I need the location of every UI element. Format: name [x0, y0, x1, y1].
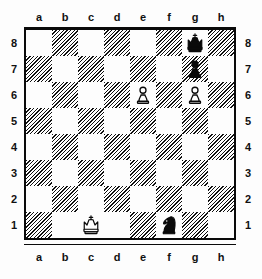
square-b8[interactable]	[52, 30, 78, 56]
square-h5[interactable]	[208, 108, 234, 134]
file-label-b: b	[52, 248, 78, 266]
file-label-b: b	[52, 8, 78, 26]
square-f2[interactable]	[156, 186, 182, 212]
square-f7[interactable]	[156, 56, 182, 82]
rank-label-1: 1	[239, 212, 257, 238]
rank-labels-left: 87654321	[5, 30, 23, 238]
square-g7[interactable]	[182, 56, 208, 82]
square-e2[interactable]	[130, 186, 156, 212]
square-b2[interactable]	[52, 186, 78, 212]
square-a3[interactable]	[26, 160, 52, 186]
square-d8[interactable]	[104, 30, 130, 56]
square-b4[interactable]	[52, 134, 78, 160]
square-d5[interactable]	[104, 108, 130, 134]
board-bottom-rule	[24, 244, 236, 245]
square-a8[interactable]	[26, 30, 52, 56]
file-label-g: g	[182, 248, 208, 266]
square-a7[interactable]	[26, 56, 52, 82]
file-label-g: g	[182, 8, 208, 26]
square-c4[interactable]	[78, 134, 104, 160]
file-label-f: f	[156, 248, 182, 266]
rank-labels-right: 87654321	[239, 30, 257, 238]
rank-label-1: 1	[5, 212, 23, 238]
rank-label-4: 4	[239, 134, 257, 160]
file-label-a: a	[26, 248, 52, 266]
square-c7[interactable]	[78, 56, 104, 82]
square-b7[interactable]	[52, 56, 78, 82]
square-d7[interactable]	[104, 56, 130, 82]
square-a4[interactable]	[26, 134, 52, 160]
file-label-e: e	[130, 8, 156, 26]
file-label-h: h	[208, 248, 234, 266]
square-b1[interactable]	[52, 212, 78, 238]
rank-label-7: 7	[239, 56, 257, 82]
square-e7[interactable]	[130, 56, 156, 82]
square-c5[interactable]	[78, 108, 104, 134]
chess-diagram: abcdefgh 87654321 87654321 abcdefgh	[0, 0, 262, 279]
square-d3[interactable]	[104, 160, 130, 186]
square-h8[interactable]	[208, 30, 234, 56]
square-f3[interactable]	[156, 160, 182, 186]
square-f8[interactable]	[156, 30, 182, 56]
square-d4[interactable]	[104, 134, 130, 160]
rank-label-3: 3	[5, 160, 23, 186]
square-e8[interactable]	[130, 30, 156, 56]
square-b3[interactable]	[52, 160, 78, 186]
square-d6[interactable]	[104, 82, 130, 108]
rank-label-5: 5	[5, 108, 23, 134]
square-e1[interactable]	[130, 212, 156, 238]
file-label-d: d	[104, 248, 130, 266]
rank-label-3: 3	[239, 160, 257, 186]
square-h2[interactable]	[208, 186, 234, 212]
square-g3[interactable]	[182, 160, 208, 186]
square-f4[interactable]	[156, 134, 182, 160]
square-h1[interactable]	[208, 212, 234, 238]
rank-label-4: 4	[5, 134, 23, 160]
square-a2[interactable]	[26, 186, 52, 212]
white-pawn-icon[interactable]	[130, 82, 156, 108]
square-b5[interactable]	[52, 108, 78, 134]
black-pawn-icon[interactable]	[182, 56, 208, 82]
square-d1[interactable]	[104, 212, 130, 238]
square-c3[interactable]	[78, 160, 104, 186]
square-g2[interactable]	[182, 186, 208, 212]
rank-label-2: 2	[239, 186, 257, 212]
square-a5[interactable]	[26, 108, 52, 134]
square-a6[interactable]	[26, 82, 52, 108]
square-e5[interactable]	[130, 108, 156, 134]
square-h4[interactable]	[208, 134, 234, 160]
square-b6[interactable]	[52, 82, 78, 108]
chessboard[interactable]	[24, 28, 236, 240]
square-a1[interactable]	[26, 212, 52, 238]
file-labels-top: abcdefgh	[26, 8, 234, 26]
file-label-c: c	[78, 8, 104, 26]
square-f5[interactable]	[156, 108, 182, 134]
square-e4[interactable]	[130, 134, 156, 160]
square-e3[interactable]	[130, 160, 156, 186]
white-pawn-icon[interactable]	[182, 82, 208, 108]
square-d2[interactable]	[104, 186, 130, 212]
square-g6[interactable]	[182, 82, 208, 108]
white-king-icon[interactable]	[78, 212, 104, 238]
square-e6[interactable]	[130, 82, 156, 108]
square-h3[interactable]	[208, 160, 234, 186]
square-h6[interactable]	[208, 82, 234, 108]
file-label-h: h	[208, 8, 234, 26]
square-f6[interactable]	[156, 82, 182, 108]
square-c6[interactable]	[78, 82, 104, 108]
black-king-icon[interactable]	[182, 30, 208, 56]
rank-label-5: 5	[239, 108, 257, 134]
black-knight-icon[interactable]	[156, 212, 182, 238]
square-g4[interactable]	[182, 134, 208, 160]
rank-label-8: 8	[239, 30, 257, 56]
square-h7[interactable]	[208, 56, 234, 82]
square-c1[interactable]	[78, 212, 104, 238]
rank-label-7: 7	[5, 56, 23, 82]
rank-label-2: 2	[5, 186, 23, 212]
square-c8[interactable]	[78, 30, 104, 56]
square-f1[interactable]	[156, 212, 182, 238]
square-c2[interactable]	[78, 186, 104, 212]
square-g1[interactable]	[182, 212, 208, 238]
square-g5[interactable]	[182, 108, 208, 134]
square-g8[interactable]	[182, 30, 208, 56]
